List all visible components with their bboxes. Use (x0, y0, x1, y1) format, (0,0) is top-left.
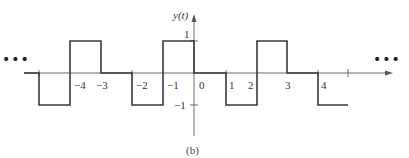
y-axis-arrow-icon (192, 14, 197, 22)
signal-diagram: ••• ••• y(t) 1 −1 −4 −3 −2 −1 0 1 2 3 4 … (0, 0, 409, 158)
x-tick-label-4: 4 (321, 79, 327, 91)
figure-caption: (b) (186, 144, 199, 157)
x-tick-label-3: 3 (285, 79, 291, 91)
y-axis (190, 14, 198, 136)
x-tick-label-neg4: −4 (74, 79, 86, 91)
x-tick-label-neg1: −1 (167, 79, 179, 91)
y-tick-label-neg1: −1 (174, 99, 186, 111)
x-axis-arrow-icon (385, 71, 393, 76)
x-tick-label-2: 2 (248, 79, 254, 91)
ellipsis-left: ••• (2, 51, 30, 67)
x-tick-label-neg3: −3 (96, 79, 108, 91)
x-tick-label-neg2: −2 (136, 79, 148, 91)
x-tick-label-1: 1 (229, 79, 235, 91)
ellipsis-right: ••• (373, 51, 401, 67)
x-tick-label-0: 0 (199, 79, 205, 91)
y-tick-label-1: 1 (184, 28, 190, 40)
y-axis-label: y(t) (172, 9, 189, 22)
